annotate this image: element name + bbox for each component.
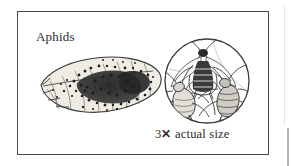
magnifier-group — [152, 37, 256, 135]
scale-caption: 3✕ actual size — [155, 127, 230, 142]
aphids-figure: Aphids 3✕ actual size — [0, 0, 292, 166]
scale-caption-text: actual size — [175, 127, 230, 141]
multiplication-sign-icon: ✕ — [161, 128, 171, 140]
leaf-group — [41, 57, 161, 112]
figure-label-aphids: Aphids — [36, 29, 75, 45]
scan-artifact-edge-line — [287, 128, 289, 166]
scan-artifact-faint-line — [284, 6, 285, 126]
